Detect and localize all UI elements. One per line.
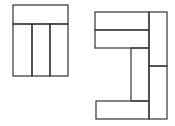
left-figure-column-3 [50,24,68,76]
left-figure-column-2 [32,24,50,76]
right-figure-top-bar-lower [95,30,149,48]
right-figure-middle-column [131,48,149,101]
right-figure [95,12,167,119]
right-figure-right-column-upper [149,12,167,66]
left-figure-top-bar [13,5,68,24]
right-figure-top-bar-upper [95,12,149,30]
right-figure-bottom-bar [96,101,149,119]
right-figure-right-column-lower [149,66,167,119]
diagram-canvas [0,0,175,126]
left-figure [13,5,68,76]
left-figure-column-1 [13,24,32,76]
